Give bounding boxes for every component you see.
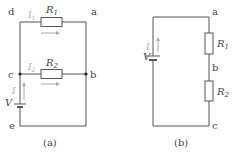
resistor-label-r1-a: R1: [45, 4, 58, 17]
node-c-dot: [18, 72, 21, 75]
circuit-diagrams: d a c b e R1 R2 I1 I2 I V (a) a b c R1 R…: [0, 0, 235, 153]
node-label-a: a: [91, 6, 97, 17]
node-label-c: c: [8, 69, 14, 80]
node-label-d: d: [8, 6, 15, 17]
current-label-i2: I2: [27, 62, 36, 73]
circuit-a: d a c b e R1 R2 I1 I2 I V (a): [5, 4, 97, 148]
source-label-v-a: V: [5, 97, 14, 108]
current-label-i: I: [11, 86, 16, 96]
node-label-a-b: a: [212, 6, 218, 17]
node-label-e: e: [9, 120, 15, 131]
resistor-r2-a: [41, 70, 62, 79]
circuit-b: a b c R1 R2 I V (b): [143, 6, 230, 148]
node-b-dot: [84, 72, 87, 75]
resistor-label-r1-b: R1: [216, 38, 229, 51]
resistor-r1-b: [205, 33, 213, 54]
resistor-label-r2-b: R2: [216, 86, 230, 99]
circuit-b-wires: [153, 17, 209, 126]
caption-b: (b): [174, 137, 188, 148]
current-label-i1: I1: [27, 10, 35, 21]
node-label-b-b: b: [212, 62, 218, 73]
resistor-label-r2-a: R2: [45, 57, 59, 70]
resistor-r1-a: [41, 18, 62, 27]
node-label-b: b: [90, 69, 96, 80]
resistor-r2-b: [205, 81, 213, 101]
caption-a: (a): [43, 137, 57, 148]
node-label-c-b: c: [212, 120, 218, 131]
